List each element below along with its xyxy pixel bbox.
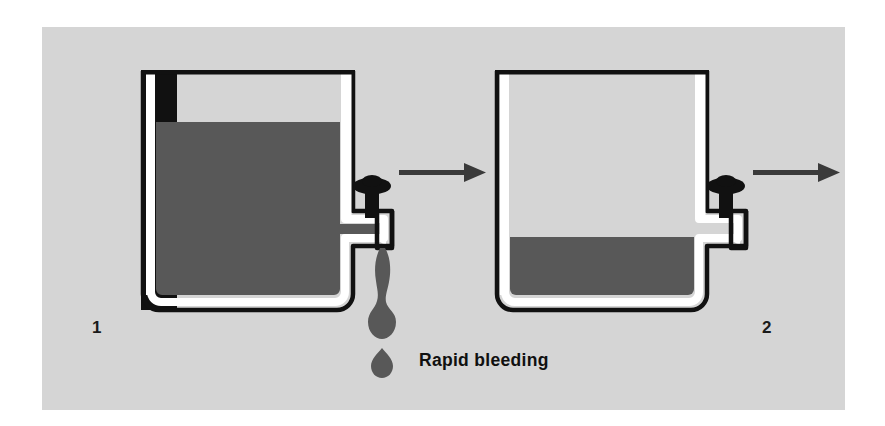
tank-2-rim bbox=[495, 70, 709, 75]
drip-drop bbox=[371, 348, 393, 378]
tank-2-liquid bbox=[510, 237, 694, 295]
liquid-drip bbox=[368, 248, 396, 378]
arrow-right-icon bbox=[399, 163, 486, 182]
step-1-group bbox=[141, 70, 486, 378]
drip-stream bbox=[368, 248, 396, 339]
tank-2-right-highlight bbox=[700, 73, 706, 216]
step-2-group bbox=[495, 70, 840, 310]
tank-1-right-highlight bbox=[346, 73, 352, 216]
tank-1-spout-lining bbox=[384, 219, 386, 240]
tank-1-rim bbox=[141, 70, 355, 75]
tank-2-left-highlight bbox=[500, 73, 506, 295]
arrow-right-icon bbox=[753, 163, 840, 182]
step-number-2: 2 bbox=[762, 318, 771, 338]
step-number-1: 1 bbox=[92, 318, 101, 338]
tank-2-spout-lining bbox=[738, 219, 740, 240]
tank-1-left-highlight bbox=[146, 73, 152, 295]
figure-stage: 1 2 Rapid bleeding bbox=[0, 0, 885, 426]
figure-caption: Rapid bleeding bbox=[419, 350, 549, 371]
